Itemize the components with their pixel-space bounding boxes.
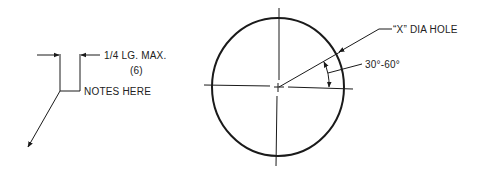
angle-leader xyxy=(328,64,362,73)
angle-label: 30°-60° xyxy=(365,59,400,70)
dimension-label: 1/4 LG. MAX. xyxy=(104,50,166,61)
radial-line xyxy=(279,52,340,87)
dimension-metric-label: (6) xyxy=(130,65,143,76)
hole-callout-label: “X” DIA HOLE xyxy=(393,24,458,35)
angle-arc xyxy=(324,62,329,87)
note-text: NOTES HERE xyxy=(84,86,151,97)
centerline-horizontal-left xyxy=(204,85,270,86)
leader-note-detail xyxy=(28,54,100,147)
technical-drawing: 1/4 LG. MAX. (6) NOTES HERE “X” DIA HOLE… xyxy=(0,0,490,178)
leader-arrow xyxy=(28,91,60,147)
hole-detail xyxy=(204,8,392,166)
hole-callout-leader xyxy=(339,29,379,52)
